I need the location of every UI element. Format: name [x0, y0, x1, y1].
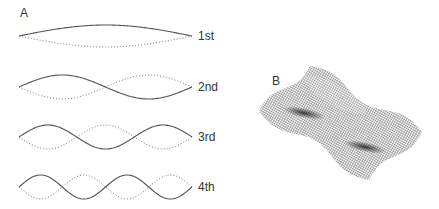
wave-dotted-1: [19, 36, 192, 47]
wave-solid-1: [19, 25, 192, 36]
wave-solid-3: [19, 125, 192, 149]
panel-a-label: A: [20, 6, 28, 20]
figure: A 1st2nd3rd4th B: [0, 0, 439, 209]
mode-label-4: 4th: [198, 180, 215, 194]
wave-dotted-3: [19, 125, 192, 149]
wave-dotted-2: [19, 75, 192, 99]
wave-solid-4: [19, 175, 192, 199]
standing-wave-modes: 1st2nd3rd4th: [19, 25, 218, 199]
mode-label-3: 3rd: [198, 130, 215, 144]
mode-label-2: 2nd: [198, 80, 218, 94]
panel-b-label: B: [272, 74, 280, 88]
mode-label-1: 1st: [198, 29, 215, 43]
